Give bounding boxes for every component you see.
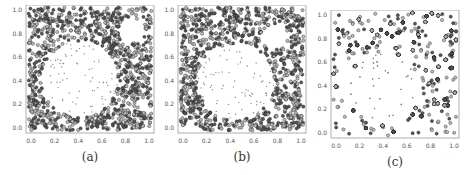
svg-text:0.6: 0.6 [12, 53, 22, 60]
svg-text:0.8: 0.8 [164, 30, 174, 37]
svg-text:0.4: 0.4 [164, 77, 174, 84]
svg-text:0.2: 0.2 [12, 100, 22, 107]
svg-text:0.8: 0.8 [317, 35, 327, 42]
scatter-panel-c: 0.00.20.40.60.81.00.00.20.40.60.81.0 [305, 10, 463, 158]
caption-a: (a) [70, 150, 110, 164]
svg-text:1.0: 1.0 [164, 6, 174, 13]
svg-text:0.0: 0.0 [164, 124, 174, 131]
svg-text:0.4: 0.4 [12, 77, 22, 84]
svg-text:0.0: 0.0 [331, 142, 341, 149]
caption-b: (b) [222, 150, 262, 164]
svg-text:0.4: 0.4 [225, 137, 235, 144]
svg-text:0.2: 0.2 [202, 137, 212, 144]
scatter-panel-a: 0.00.20.40.60.81.00.00.20.40.60.81.0 [0, 5, 158, 153]
svg-text:0.4: 0.4 [73, 137, 83, 144]
svg-text:0.2: 0.2 [355, 142, 365, 149]
svg-text:0.2: 0.2 [164, 100, 174, 107]
svg-text:0.6: 0.6 [249, 137, 259, 144]
svg-text:1.0: 1.0 [317, 11, 327, 18]
svg-text:0.2: 0.2 [50, 137, 60, 144]
svg-text:0.8: 0.8 [426, 142, 436, 149]
svg-text:0.8: 0.8 [273, 137, 283, 144]
svg-text:0.8: 0.8 [121, 137, 131, 144]
svg-text:0.0: 0.0 [317, 129, 327, 136]
svg-text:0.6: 0.6 [164, 53, 174, 60]
scatter-panel-b: 0.00.20.40.60.81.00.00.20.40.60.81.0 [152, 5, 310, 153]
svg-text:1.0: 1.0 [449, 142, 459, 149]
svg-text:0.0: 0.0 [26, 137, 36, 144]
svg-text:0.8: 0.8 [12, 30, 22, 37]
caption-c: (c) [375, 155, 415, 169]
svg-text:0.6: 0.6 [97, 137, 107, 144]
svg-text:0.4: 0.4 [317, 82, 327, 89]
svg-text:0.6: 0.6 [317, 58, 327, 65]
svg-text:1.0: 1.0 [12, 6, 22, 13]
svg-text:0.0: 0.0 [12, 124, 22, 131]
svg-text:0.4: 0.4 [378, 142, 388, 149]
svg-text:0.0: 0.0 [178, 137, 188, 144]
svg-text:0.2: 0.2 [317, 105, 327, 112]
svg-text:0.6: 0.6 [402, 142, 412, 149]
